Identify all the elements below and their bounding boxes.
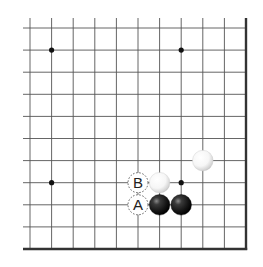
label-letter: B bbox=[133, 174, 143, 191]
label-a[interactable]: A bbox=[128, 195, 148, 215]
star-point-icon bbox=[49, 180, 54, 185]
star-point-icon bbox=[179, 180, 184, 185]
white-stone-icon[interactable] bbox=[149, 172, 170, 193]
white-stone-icon[interactable] bbox=[193, 150, 214, 171]
star-point-icon bbox=[49, 48, 54, 53]
star-point-icon bbox=[179, 48, 184, 53]
label-letter: A bbox=[133, 196, 143, 213]
board-grid bbox=[23, 18, 247, 250]
go-board: BA bbox=[0, 0, 263, 267]
label-b[interactable]: B bbox=[128, 173, 148, 193]
black-stone-icon[interactable] bbox=[149, 195, 170, 216]
black-stone-icon[interactable] bbox=[171, 195, 192, 216]
